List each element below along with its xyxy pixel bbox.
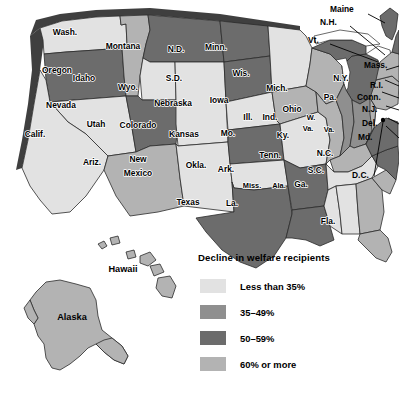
legend-swatch-less-than-35 [200,279,226,293]
label-texas: Texas [176,197,199,207]
label-ala: Ala. [272,181,286,190]
label-la: La. [226,198,238,208]
label-kansas: Kansas [169,129,199,139]
legend-label-35-49: 35–49% [240,307,274,318]
dc-marker-dot [381,118,385,122]
label-ga: Ga. [294,179,308,189]
legend-label-50-59: 50–59% [240,333,274,344]
label-ky: Ky. [277,130,289,140]
label-wash: Wash. [53,27,77,37]
map-legend: Decline in welfare recipients Less than … [192,252,392,377]
label-conn: Conn. [357,92,381,102]
legend-swatch-60-or-more [200,357,226,371]
legend-row: 35–49% [192,299,392,325]
label-okla: Okla. [186,160,206,170]
label-alaska: Alaska [57,312,88,322]
label-ill: Ill. [243,112,252,122]
legend-row: 50–59% [192,325,392,351]
label-oregon: Oregon [42,65,72,75]
label-nd: N.D. [168,44,185,54]
label-iowa: Iowa [210,95,229,105]
alaska-panhandle[interactable] [96,338,128,364]
label-montana: Montana [106,41,141,51]
label-mich: Mich. [266,83,287,93]
label-fla: Fla. [321,216,335,226]
label-newmexico-line2: Mexico [124,168,152,178]
state-maine[interactable] [380,8,398,40]
legend-row: 60% or more [192,351,392,377]
label-miss: Miss. [243,181,261,190]
label-wyo: Wyo. [118,82,138,92]
state-northdakota[interactable] [220,21,270,62]
label-tenn: Tenn. [259,150,281,160]
state-minnesota[interactable] [268,26,312,92]
label-ariz: Ariz. [83,157,101,167]
label-nc: N.C. [317,148,334,158]
label-newmexico-line1: New [129,154,147,164]
label-ny: N.Y. [333,73,348,83]
label-ri: R.I. [370,80,383,90]
label-pa: Pa. [324,92,337,102]
label-vt: Vt. [308,35,319,45]
label-dc: D.C. [352,170,369,180]
label-idaho: Idaho [73,73,95,83]
label-nh: N.H. [320,17,337,27]
label-del: Del. [362,118,377,128]
legend-row: Less than 35% [192,273,392,299]
label-ind: Ind. [263,112,278,122]
label-wva-line1: W. [307,113,316,122]
legend-title: Decline in welfare recipients [198,252,392,263]
legend-swatch-35-49 [200,305,226,319]
label-va: Va. [324,125,335,134]
label-utah: Utah [87,119,106,129]
label-md: Md. [358,132,372,142]
label-wis: Wis. [232,68,249,78]
state-montana[interactable] [143,15,224,62]
label-ohio: Ohio [282,104,301,114]
legend-label-60-or-more: 60% or more [240,359,296,370]
label-mo: Mo. [221,128,235,138]
label-ark: Ark. [218,164,234,174]
label-maine: Maine [330,4,354,14]
label-nevada: Nevada [46,100,76,110]
label-wva-line2: Va. [303,124,314,133]
label-sd: S.D. [166,73,182,83]
label-mass: Mass. [364,60,387,70]
label-hawaii: Hawaii [108,264,137,274]
label-colorado: Colorado [120,120,157,130]
label-minn: Minn. [205,42,227,52]
label-nj: N.J. [362,104,377,114]
label-sc: S.C. [308,165,324,175]
label-nebraska: Nebraska [154,98,192,108]
us-choropleth-figure: Wash. Oregon Idaho Montana Wyo. Nevada C… [0,0,399,396]
legend-swatch-50-59 [200,331,226,345]
legend-label-less-than-35: Less than 35% [240,281,305,292]
label-calif: Calif. [25,129,45,139]
